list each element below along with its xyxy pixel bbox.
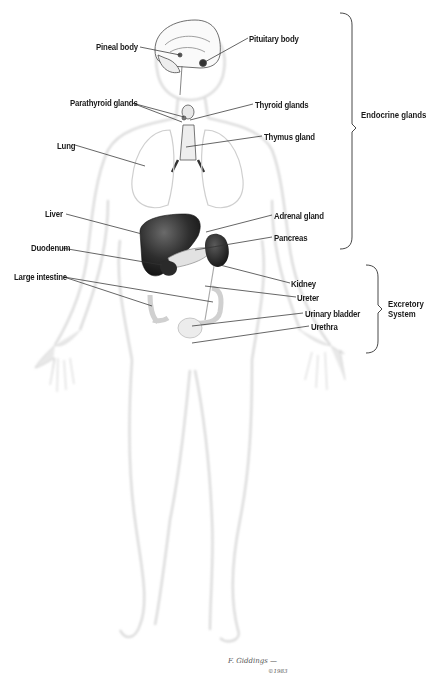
right-hand xyxy=(300,330,345,390)
anatomy-diagram: Pineal body Pituitary body Parathyroid g… xyxy=(0,0,438,682)
group-label-endocrine-glands: Endocrine glands xyxy=(361,109,426,120)
copyright-year: ©1983 xyxy=(268,668,288,674)
label-pineal-body: Pineal body xyxy=(96,41,138,52)
label-urethra: Urethra xyxy=(311,321,338,332)
label-pituitary-body: Pituitary body xyxy=(249,33,299,44)
urinary-bladder xyxy=(178,318,202,338)
group-label-excretory-line2: System xyxy=(388,308,416,319)
label-duodenum: Duodenum xyxy=(31,242,70,253)
label-urinary-bladder: Urinary bladder xyxy=(305,308,360,319)
artist-signature: F. Giddings — xyxy=(228,657,277,665)
brain xyxy=(155,20,220,95)
label-kidney: Kidney xyxy=(291,278,316,289)
label-ureter: Ureter xyxy=(297,292,319,303)
ureter xyxy=(205,266,214,320)
label-liver: Liver xyxy=(45,208,63,219)
label-adrenal-gland: Adrenal gland xyxy=(274,210,324,221)
endocrine-bracket xyxy=(340,13,356,249)
label-pancreas: Pancreas xyxy=(274,232,307,243)
body-illustration xyxy=(0,0,438,682)
excretory-bracket xyxy=(366,265,382,353)
label-lung: Lung xyxy=(57,140,75,151)
label-thymus-gland: Thymus gland xyxy=(264,131,315,142)
label-parathyroid-glands: Parathyroid glands xyxy=(70,97,138,108)
label-large-intestine: Large intestine xyxy=(14,271,67,282)
leader-lines xyxy=(62,38,309,343)
label-thyroid-glands: Thyroid glands xyxy=(255,99,309,110)
kidney xyxy=(205,234,229,267)
